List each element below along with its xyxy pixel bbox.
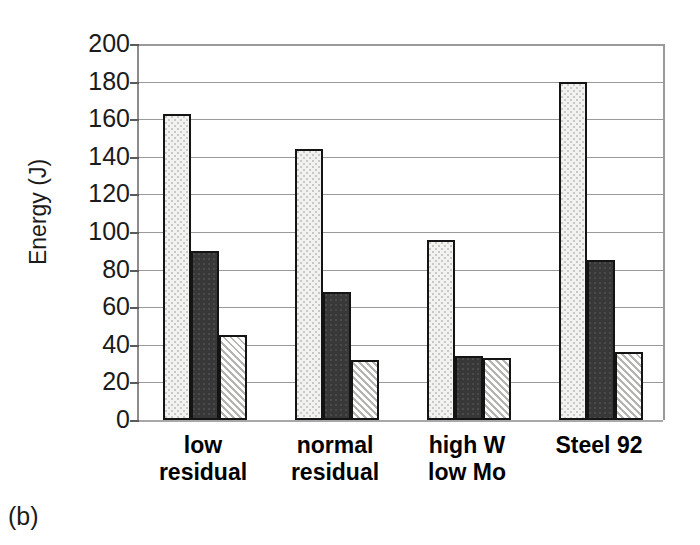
y-tick-mark <box>130 307 139 309</box>
bar <box>219 335 247 420</box>
bar <box>559 82 587 420</box>
gridline <box>139 420 663 422</box>
y-tick-label: 140 <box>42 144 130 169</box>
y-tick-mark <box>130 345 139 347</box>
bar <box>427 240 455 420</box>
y-tick-mark <box>130 157 139 159</box>
y-tick-label: 200 <box>42 31 130 56</box>
panel-caption: (b) <box>8 502 39 530</box>
y-tick-label: 120 <box>42 181 130 206</box>
bar-chart-figure: Energy (J) 200180160140120100806040200 l… <box>0 0 700 545</box>
y-tick-label: 160 <box>42 106 130 131</box>
y-tick-mark <box>130 382 139 384</box>
y-tick-label: 80 <box>42 257 130 282</box>
y-tick-mark <box>130 420 139 422</box>
bar <box>615 352 643 420</box>
y-tick-label: 40 <box>42 332 130 357</box>
y-tick-mark <box>130 119 139 121</box>
bar <box>587 260 615 420</box>
y-tick-label: 100 <box>42 219 130 244</box>
bar <box>323 292 351 420</box>
bar <box>191 251 219 420</box>
bar <box>351 360 379 420</box>
y-tick-mark <box>130 194 139 196</box>
bar <box>295 149 323 420</box>
y-axis-tick-labels: 200180160140120100806040200 <box>42 44 130 420</box>
y-tick-label: 60 <box>42 294 130 319</box>
gridline <box>139 44 663 46</box>
bar <box>163 114 191 420</box>
bar <box>455 356 483 420</box>
y-tick-mark <box>130 44 139 46</box>
y-tick-label: 180 <box>42 69 130 94</box>
x-category-label: Steel 92 <box>509 432 689 459</box>
plot-area <box>137 44 665 420</box>
y-tick-mark <box>130 232 139 234</box>
y-tick-label: 0 <box>42 407 130 432</box>
y-tick-mark <box>130 270 139 272</box>
bar <box>483 358 511 420</box>
y-tick-label: 20 <box>42 369 130 394</box>
y-tick-mark <box>130 82 139 84</box>
